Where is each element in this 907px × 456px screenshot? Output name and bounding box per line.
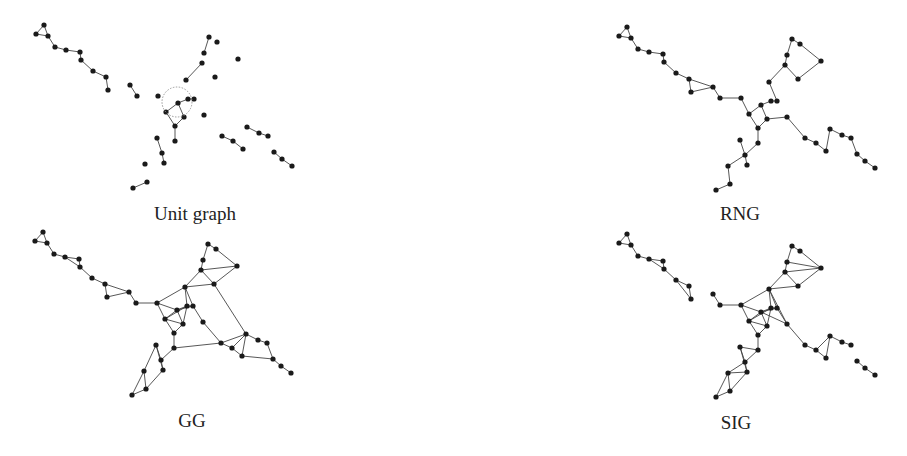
graph-edge [107, 292, 129, 297]
graph-edge [741, 98, 749, 114]
graph-node [130, 185, 135, 190]
graph-node [190, 303, 195, 308]
graph-node [143, 386, 148, 391]
graph-node [737, 137, 742, 142]
graph-edge [769, 286, 798, 289]
graph-edge [745, 143, 758, 155]
graph-node [77, 49, 82, 54]
graph-edge [728, 362, 745, 373]
graph-node [782, 62, 787, 67]
graph-edge [185, 270, 201, 287]
graph-node [774, 98, 779, 103]
graph-edge [203, 322, 221, 343]
graph-node [270, 356, 275, 361]
graph-edge [769, 65, 785, 82]
graph-node [144, 179, 149, 184]
graph-node [185, 96, 190, 101]
graph-node [738, 95, 743, 100]
graph-node [103, 74, 108, 79]
graph-node [255, 337, 260, 342]
graph-edge [221, 334, 246, 343]
graph-node [827, 126, 832, 131]
graph-node [230, 138, 235, 143]
graph-node [40, 229, 45, 234]
graph-node [51, 251, 56, 256]
graph-node [755, 125, 760, 130]
graph-node [158, 357, 163, 362]
graph-node [686, 283, 691, 288]
graph-edge [769, 272, 785, 289]
graph-node [784, 321, 789, 326]
graph-node [727, 181, 732, 186]
graph-node [854, 358, 859, 363]
graph-edge [193, 306, 203, 322]
graph-node [854, 151, 859, 156]
graph-node [200, 257, 205, 262]
graph-edge [798, 268, 821, 286]
graph-node [239, 353, 244, 358]
graph-node [201, 112, 206, 117]
graph-node [795, 283, 800, 288]
graph-node [758, 309, 763, 314]
graph-edge [798, 61, 821, 79]
graph-node [784, 114, 789, 119]
graph-node [737, 344, 742, 349]
graph-node [746, 318, 751, 323]
graph-node [818, 58, 823, 63]
graph-node [243, 331, 248, 336]
graph-edge [728, 373, 730, 391]
graph-canvas [0, 0, 907, 456]
graph-node [63, 47, 68, 52]
graph-node [742, 359, 747, 364]
graph-node [744, 162, 749, 167]
graph-node [635, 253, 640, 258]
graph-node [256, 130, 261, 135]
graph-node [688, 89, 693, 94]
graph-node [862, 158, 867, 163]
graph-node [142, 161, 147, 166]
graph-node [206, 34, 211, 39]
graph-node [104, 294, 109, 299]
graph-node [744, 369, 749, 374]
graph-edge [800, 251, 821, 268]
graph-node [199, 60, 204, 65]
graph-node [784, 52, 789, 57]
graph-node [201, 50, 206, 55]
graph-node [725, 163, 730, 168]
graph-node [218, 340, 223, 345]
graph-node [624, 24, 629, 29]
graph-node [755, 332, 760, 337]
graph-node [616, 240, 621, 245]
graph-node [264, 340, 269, 345]
graph-edge [745, 350, 758, 362]
graph-node [134, 93, 139, 98]
graph-node [813, 140, 818, 145]
graph-node [872, 372, 877, 377]
graph-node [795, 76, 800, 81]
graph-node [755, 347, 760, 352]
graph-node [76, 256, 81, 261]
graph-node [713, 394, 718, 399]
graph-node [77, 264, 82, 269]
graph-node [244, 124, 249, 129]
graph-node [155, 93, 160, 98]
graph-edge [144, 345, 156, 371]
graph-node [174, 307, 179, 312]
graph-node [265, 133, 270, 138]
graph-node [848, 342, 853, 347]
graph-node [616, 33, 621, 38]
graph-node [823, 148, 828, 153]
graph-node [183, 77, 188, 82]
graph-node [184, 303, 189, 308]
graph-edge [769, 82, 777, 101]
graph-edge [201, 270, 214, 284]
graph-node [872, 165, 877, 170]
graph-node [823, 355, 828, 360]
graph-node [153, 342, 158, 347]
graph-edge [787, 262, 821, 268]
graph-node [33, 31, 38, 36]
graph-node [160, 367, 165, 372]
graph-edge [174, 343, 221, 348]
graph-node [211, 281, 216, 286]
graph-node [673, 70, 678, 75]
